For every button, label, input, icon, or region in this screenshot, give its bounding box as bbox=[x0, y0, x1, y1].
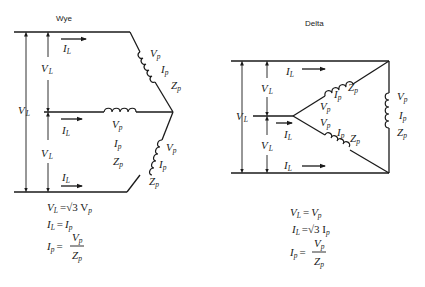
delta-right-vp: Vp bbox=[397, 90, 408, 104]
wye-phase-b-vp: Vp bbox=[112, 118, 123, 132]
delta-eq-ip: Ip= bbox=[289, 246, 306, 260]
delta-upper-ip: Ip bbox=[333, 88, 342, 102]
delta-upper-zp: Zp bbox=[348, 81, 358, 95]
wye-vl-label-lower: VL bbox=[41, 147, 53, 161]
delta-lower-ip: Ip bbox=[336, 126, 345, 140]
wye-vl-label-upper: VL bbox=[41, 62, 53, 76]
wye-phase-a-zp: Zp bbox=[171, 79, 181, 93]
delta-eq-ip-numerator: Vp bbox=[314, 237, 325, 251]
wye-diagram: Wye IL IL IL VL VL VL Vp bbox=[14, 14, 181, 263]
wye-il-label-a: IL bbox=[62, 42, 71, 56]
delta-phase-right-coil bbox=[385, 93, 389, 128]
wye-il-label-b: IL bbox=[61, 124, 70, 138]
wye-phase-b-zp: Zp bbox=[113, 155, 123, 169]
delta-vl-label-upper: VL bbox=[261, 82, 273, 96]
wye-eq-vl: VL=√3 Vp bbox=[47, 201, 92, 215]
wye-phase-c-ip: Ip bbox=[158, 158, 167, 172]
wye-phase-a-vp: Vp bbox=[150, 47, 161, 61]
wye-phase-b-ip: Ip bbox=[113, 137, 122, 151]
wye-phase-c-zp: Zp bbox=[149, 175, 159, 189]
wye-phase-b-coil bbox=[104, 108, 136, 112]
delta-lower-vp: Vp bbox=[320, 116, 331, 130]
wye-phase-c-vp: Vp bbox=[166, 141, 177, 155]
wye-vl-label-total: VL bbox=[18, 104, 30, 118]
delta-right-zp: Zp bbox=[397, 126, 407, 140]
wye-eq-ip: Ip= bbox=[46, 240, 63, 254]
delta-lower-zp: Zp bbox=[350, 132, 360, 146]
delta-vl-label-total: VL bbox=[236, 110, 248, 124]
delta-title: Delta bbox=[305, 19, 324, 28]
wye-phase-a-ip: Ip bbox=[160, 63, 169, 77]
wye-eq-ip-denominator: Zp bbox=[72, 249, 82, 263]
delta-diagram: Delta IL IL IL VL VL VL bbox=[231, 19, 408, 269]
delta-equations: VL=Vp IL=√3 Ip Ip= Vp Zp bbox=[289, 206, 330, 269]
delta-upper-vp: Vp bbox=[320, 100, 331, 114]
delta-il-label-a: IL bbox=[285, 65, 294, 79]
delta-vl-label-lower: VL bbox=[261, 139, 273, 153]
wye-equations: VL=√3 Vp IL=Ip Ip= Vp Zp bbox=[46, 201, 92, 263]
delta-il-label-b: IL bbox=[283, 128, 292, 142]
delta-eq-vl: VL=Vp bbox=[290, 206, 322, 220]
delta-eq-ip-denominator: Zp bbox=[314, 255, 324, 269]
wye-title: Wye bbox=[56, 14, 72, 23]
wye-eq-il: IL=Ip bbox=[46, 218, 73, 232]
delta-eq-il: IL=√3 Ip bbox=[291, 223, 330, 237]
wye-eq-ip-numerator: Vp bbox=[72, 231, 83, 245]
delta-il-label-c: IL bbox=[283, 159, 292, 173]
wye-il-label-c: IL bbox=[61, 171, 70, 185]
delta-right-ip: Ip bbox=[398, 109, 407, 123]
three-phase-connections-diagram: Wye IL IL IL VL VL VL Vp bbox=[0, 0, 425, 287]
